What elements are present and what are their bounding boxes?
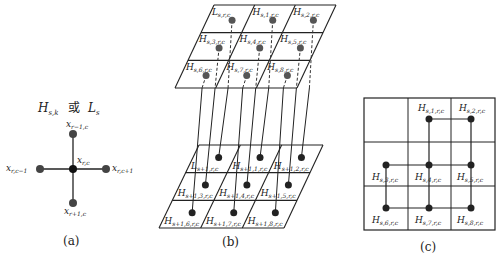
bottom-node bbox=[285, 182, 292, 189]
top-cell-label: Hs,4,r,c bbox=[239, 34, 267, 45]
caption-a: (a) bbox=[63, 234, 80, 248]
bottom-node bbox=[272, 209, 279, 216]
bottom-node bbox=[230, 209, 237, 216]
label-h8: Hs,8,r,c bbox=[456, 215, 484, 226]
top-cell-label: Ls,r,c bbox=[211, 7, 231, 18]
label-h1: Hs,1,r,c bbox=[417, 103, 445, 114]
bottom-cell-label: Hs+1,4,r,c bbox=[218, 188, 255, 199]
label-h5: Hs,5,r,c bbox=[456, 172, 484, 183]
inter-layer-link bbox=[219, 88, 228, 157]
panel-a-title-or: 或 bbox=[68, 101, 80, 115]
bottom-cell-label: Hs+1,8,r,c bbox=[247, 216, 284, 227]
top-node bbox=[229, 17, 236, 24]
bottom-node bbox=[257, 154, 264, 161]
bottom-cell-label: Ls+1,r,c bbox=[190, 161, 219, 172]
caption-c: (c) bbox=[420, 240, 436, 254]
label-h4: Hs,4,r,c bbox=[414, 172, 442, 183]
panel-c: Hs,1,r,c Hs,2,r,c Hs,3,r,c Hs,4,r,c Hs,5… bbox=[364, 98, 495, 254]
node-h4 bbox=[426, 162, 433, 169]
label-h6: Hs,6,r,c bbox=[371, 215, 399, 226]
node-h2 bbox=[468, 116, 475, 123]
node-h5 bbox=[468, 162, 475, 169]
bottom-node bbox=[215, 154, 222, 161]
node-h6 bbox=[383, 205, 390, 212]
node-h1 bbox=[426, 116, 433, 123]
node-h3 bbox=[383, 162, 390, 169]
node-bottom bbox=[69, 199, 77, 207]
bottom-cell-label: Hs+1,5,r,c bbox=[260, 188, 297, 199]
panel-a-title-h: Hs,k bbox=[37, 101, 59, 117]
inter-layer-link bbox=[260, 88, 269, 157]
node-right bbox=[102, 165, 110, 173]
label-bottom: xr+1,c bbox=[64, 206, 87, 217]
bottom-node bbox=[298, 154, 305, 161]
bottom-cell-label: Hs+1,7,r,c bbox=[205, 216, 242, 227]
top-cell-label: Hs,8,r,c bbox=[266, 62, 294, 73]
label-h2: Hs,2,r,c bbox=[458, 103, 486, 114]
label-center: xr,c bbox=[77, 155, 90, 166]
top-node bbox=[297, 44, 304, 51]
top-node bbox=[216, 44, 223, 51]
top-node bbox=[310, 17, 317, 24]
top-cell-label: Hs,3,r,c bbox=[198, 34, 226, 45]
bottom-node bbox=[202, 182, 209, 189]
top-cell-label: Hs,6,r,c bbox=[185, 62, 213, 73]
bottom-cell-label: Hs+1,6,r,c bbox=[163, 216, 200, 227]
bottom-node bbox=[243, 182, 250, 189]
label-left: xr,c−1 bbox=[6, 163, 27, 174]
bottom-cell-label: Hs+1,3,r,c bbox=[177, 188, 214, 199]
label-top: xr−1,c bbox=[66, 119, 89, 130]
top-cell-label: Hs,1,r,c bbox=[252, 7, 280, 18]
panel-a-title-l: Ls bbox=[87, 101, 100, 117]
top-cell-label: Hs,7,r,c bbox=[226, 62, 254, 73]
top-cell-label: Hs,5,r,c bbox=[279, 34, 307, 45]
node-h7 bbox=[426, 205, 433, 212]
bottom-node bbox=[189, 209, 196, 216]
panel-a: Hs,k 或 Ls xr−1,c xr,c xr,c−1 xr,c+1 xr+1… bbox=[6, 101, 133, 248]
label-right: xr,c+1 bbox=[112, 163, 133, 174]
top-node bbox=[256, 44, 263, 51]
caption-b: (b) bbox=[222, 235, 239, 249]
top-node bbox=[269, 17, 276, 24]
node-h8 bbox=[468, 205, 475, 212]
node-left bbox=[36, 165, 44, 173]
node-top bbox=[69, 130, 77, 138]
label-h7: Hs,7,r,c bbox=[414, 215, 442, 226]
top-node bbox=[284, 72, 291, 79]
node-center bbox=[69, 165, 77, 173]
inter-layer-link bbox=[301, 88, 309, 157]
top-cell-label: Hs,2,r,c bbox=[292, 7, 320, 18]
figure-canvas: Hs,k 或 Ls xr−1,c xr,c xr,c−1 xr,c+1 xr+1… bbox=[0, 0, 503, 260]
panel-b: Ls,r,cLs+1,r,cHs,1,r,cHs+1,1,r,cHs,2,r,c… bbox=[159, 5, 336, 228]
label-h3: Hs,3,r,c bbox=[371, 172, 399, 183]
top-node bbox=[243, 72, 250, 79]
top-node bbox=[203, 72, 210, 79]
